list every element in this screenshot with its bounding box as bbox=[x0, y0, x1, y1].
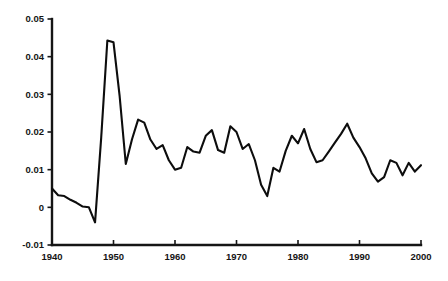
y-tick-label: 0 bbox=[39, 202, 44, 213]
chart-plot-area: 0.050.040.030.020.010-0.0119401950196019… bbox=[0, 0, 448, 281]
y-tick-label: 0.03 bbox=[26, 89, 45, 100]
data-series-line bbox=[52, 40, 421, 222]
x-tick-label: 1970 bbox=[226, 251, 247, 262]
x-tick-label: 1960 bbox=[164, 251, 185, 262]
y-tick-label: 0.02 bbox=[26, 126, 45, 137]
y-tick-label: 0.04 bbox=[26, 51, 45, 62]
y-tick-label: 0.05 bbox=[26, 13, 45, 24]
x-tick-label: 1980 bbox=[287, 251, 308, 262]
y-tick-label: -0.01 bbox=[22, 239, 44, 250]
x-tick-label: 1940 bbox=[41, 251, 62, 262]
y-tick-label: 0.01 bbox=[26, 164, 45, 175]
line-chart-figure: 0.050.040.030.020.010-0.0119401950196019… bbox=[0, 0, 448, 281]
x-tick-label: 1950 bbox=[103, 251, 124, 262]
x-tick-label: 2000 bbox=[410, 251, 431, 262]
x-tick-label: 1990 bbox=[349, 251, 370, 262]
